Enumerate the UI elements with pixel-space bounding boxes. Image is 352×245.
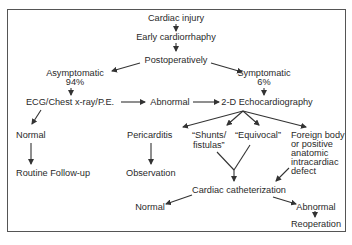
node-normal-screening: Normal xyxy=(16,130,46,140)
node-abnormal-cath: Abnormal xyxy=(296,202,335,212)
node-normal-cath: Normal xyxy=(135,202,165,212)
node-ecg-xray-pe: ECG/Chest x-ray/P.E. xyxy=(26,97,114,107)
node-observation: Observation xyxy=(126,168,176,178)
node-postoperatively: Postoperatively xyxy=(145,55,208,65)
arrow-ecg-to-normal xyxy=(32,110,41,124)
line-shunts-to-merge xyxy=(217,152,234,170)
node-early-cardiorrhaphy: Early cardiorrhaphy xyxy=(136,32,216,42)
arrow-cath-to-normal xyxy=(166,195,192,204)
node-shunts-fistulas-line1: “Shunts/ xyxy=(192,130,226,140)
node-2d-echocardiography: 2-D Echocardiography xyxy=(221,97,312,107)
node-shunts-fistulas-line2: fistulas” xyxy=(193,140,225,150)
node-equivocal: “Equivocal” xyxy=(235,130,281,140)
node-pericarditis: Pericarditis xyxy=(127,130,172,140)
node-symptomatic-percent: 6% xyxy=(257,77,270,87)
node-abnormal-screening: Abnormal xyxy=(150,97,189,107)
line-equivocal-to-merge xyxy=(234,145,250,170)
node-asymptomatic-percent: 94% xyxy=(66,77,84,87)
node-cardiac-catheterization: Cardiac catheterization xyxy=(192,185,286,195)
arrow-postop-to-asymptomatic xyxy=(112,63,140,71)
node-reoperation: Reoperation xyxy=(291,219,341,229)
node-cardiac-injury: Cardiac injury xyxy=(148,13,204,23)
arrow-foreign-body-to-cath xyxy=(276,168,289,181)
node-routine-followup: Routine Follow-up xyxy=(16,168,90,178)
node-foreign-body-line5: defect xyxy=(291,166,316,176)
arrow-cath-to-abnormal xyxy=(273,197,296,204)
